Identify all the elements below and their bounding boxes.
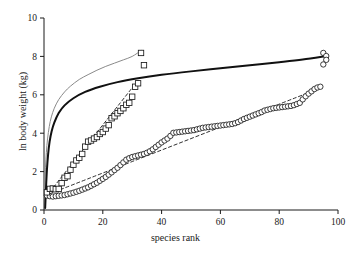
data-point: [59, 180, 64, 185]
data-point: [135, 81, 140, 86]
y-tick-label-0: 0: [32, 205, 37, 215]
x-tick-label-20: 20: [98, 217, 108, 227]
y-tick-label-2: 2: [32, 167, 37, 177]
data-point: [65, 174, 70, 179]
data-point: [80, 151, 85, 156]
series-open-squares: [44, 50, 146, 195]
y-tick-label-4: 4: [32, 129, 37, 139]
y-axis-label: ln body weight (kg): [17, 32, 28, 192]
data-point: [138, 50, 143, 55]
y-tick-label-10: 10: [28, 13, 38, 23]
data-point: [318, 84, 323, 89]
x-tick-label-60: 60: [216, 217, 226, 227]
scatter-plot: 0246810020406080100: [0, 0, 351, 255]
data-point: [321, 62, 326, 67]
y-tick-label-6: 6: [32, 90, 37, 100]
data-point: [56, 186, 61, 191]
y-tick-label-8: 8: [32, 52, 37, 62]
x-tick-label-40: 40: [157, 217, 167, 227]
x-axis-label: species rank: [0, 232, 351, 243]
data-point: [127, 100, 132, 105]
data-point: [106, 122, 111, 127]
x-tick-label-100: 100: [331, 217, 346, 227]
x-tick-label-0: 0: [42, 217, 47, 227]
data-point: [130, 94, 135, 99]
x-tick-label-80: 80: [274, 217, 284, 227]
data-point: [141, 63, 146, 68]
figure-container: 0246810020406080100 species rank ln body…: [0, 0, 351, 255]
